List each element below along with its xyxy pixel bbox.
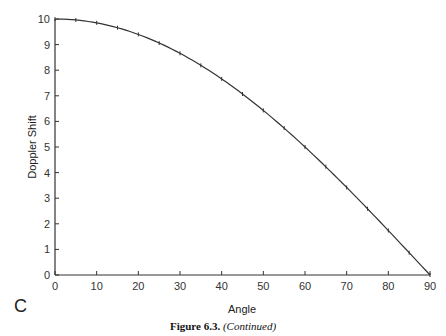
x-axis-title: Angle: [228, 303, 256, 315]
figure-number: Figure 6.3.: [170, 320, 220, 332]
x-tick-label: 90: [424, 280, 436, 292]
axes: [55, 19, 430, 275]
doppler-chart: 012345678910 0102030405060708090 Doppler…: [0, 0, 446, 336]
x-tick-label: 10: [91, 280, 103, 292]
y-tick-label: 4: [44, 167, 50, 179]
x-axis-ticks: 0102030405060708090: [52, 271, 436, 292]
y-tick-label: 0: [44, 269, 50, 281]
figure-caption: Figure 6.3. (Continued): [0, 320, 446, 332]
x-tick-label: 0: [52, 280, 58, 292]
data-markers: [55, 17, 430, 277]
x-tick-label: 30: [174, 280, 186, 292]
x-tick-label: 70: [341, 280, 353, 292]
x-tick-label: 60: [299, 280, 311, 292]
y-tick-label: 2: [44, 218, 50, 230]
x-tick-label: 20: [132, 280, 144, 292]
x-tick-label: 80: [382, 280, 394, 292]
panel-label: C: [14, 296, 27, 317]
y-tick-label: 1: [44, 243, 50, 255]
y-axis-title: Doppler Shift: [26, 115, 38, 179]
y-tick-label: 10: [38, 13, 50, 25]
y-tick-label: 7: [44, 90, 50, 102]
data-line: [55, 19, 430, 275]
y-tick-label: 9: [44, 39, 50, 51]
y-tick-label: 3: [44, 192, 50, 204]
y-axis-ticks: 012345678910: [38, 13, 59, 281]
x-tick-label: 40: [216, 280, 228, 292]
figure-note: (Continued): [223, 320, 276, 332]
y-tick-label: 5: [44, 141, 50, 153]
x-tick-label: 50: [257, 280, 269, 292]
y-tick-label: 6: [44, 115, 50, 127]
y-tick-label: 8: [44, 64, 50, 76]
